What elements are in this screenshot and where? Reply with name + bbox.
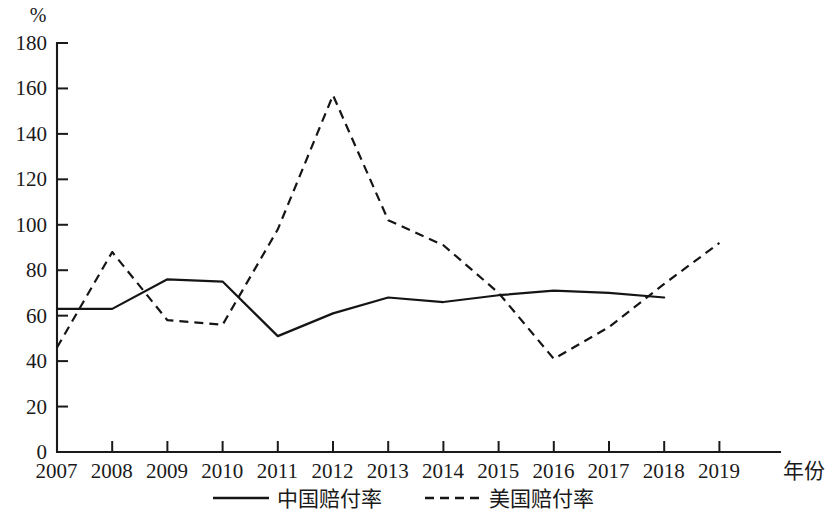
chart-container: % 020406080100120140160180 2007200820092…	[0, 0, 829, 519]
x-axis-title: 年份	[783, 459, 825, 483]
x-tick-label: 2009	[146, 459, 188, 483]
x-tick-label: 2010	[201, 459, 243, 483]
series-layer	[57, 95, 719, 359]
y-axis-unit-label: %	[30, 4, 47, 26]
legend-label: 美国赔付率	[489, 487, 594, 511]
x-tick-label: 2012	[312, 459, 354, 483]
legend-label: 中国赔付率	[277, 487, 382, 511]
x-tick-label: 2016	[532, 459, 574, 483]
y-tick-label: 60	[26, 304, 47, 328]
x-tick-label: 2008	[91, 459, 133, 483]
x-tick-label: 2011	[257, 459, 298, 483]
y-tick-label: 160	[16, 76, 48, 100]
y-tick-label: 100	[16, 213, 48, 237]
y-tick-label: 40	[26, 349, 47, 373]
series-line-1	[57, 279, 664, 336]
chart-legend: 中国赔付率美国赔付率	[213, 487, 594, 511]
y-tick-label: 80	[26, 258, 47, 282]
y-axis-unit-group: %	[30, 4, 47, 26]
y-tick-label: 20	[26, 395, 47, 419]
x-tick-label: 2018	[643, 459, 685, 483]
line-chart: % 020406080100120140160180 2007200820092…	[0, 0, 829, 519]
x-tick-label: 2014	[422, 459, 465, 483]
y-tick-label: 120	[16, 167, 48, 191]
y-axis-ticks: 020406080100120140160180	[16, 31, 69, 464]
y-tick-label: 180	[16, 31, 48, 55]
x-axis-ticks: 2007200820092010201120122013201420152016…	[36, 441, 740, 483]
x-tick-label: 2019	[698, 459, 740, 483]
x-tick-label: 2015	[477, 459, 519, 483]
series-line-2	[57, 95, 719, 359]
y-tick-label: 140	[16, 122, 48, 146]
x-tick-label: 2007	[36, 459, 78, 483]
x-tick-label: 2013	[367, 459, 409, 483]
chart-axes	[57, 43, 780, 452]
x-tick-label: 2017	[588, 459, 630, 483]
x-axis-title-group: 年份	[783, 459, 825, 483]
